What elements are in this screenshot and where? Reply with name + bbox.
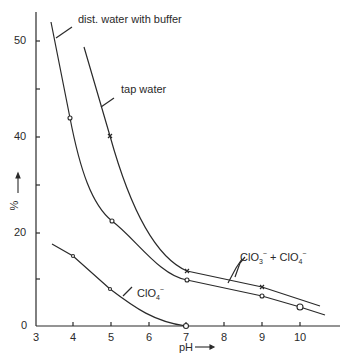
label-dist-water: dist. water with buffer — [78, 14, 182, 25]
x-tick-10: 10 — [294, 332, 306, 343]
x-tick-4: 4 — [70, 332, 76, 343]
x-tick-8: 8 — [221, 332, 227, 343]
x-tick-6: 6 — [146, 332, 152, 343]
y-axis-label: % — [9, 201, 20, 211]
x-tick-9: 9 — [259, 332, 265, 343]
x-axis-label: pH — [179, 342, 193, 353]
x-tick-3: 3 — [33, 332, 39, 343]
y-tick-0: 0 — [21, 320, 27, 331]
x-tick-5: 5 — [108, 332, 114, 343]
y-tick-20: 20 — [14, 227, 26, 238]
chart-plot — [0, 0, 353, 361]
y-tick-50: 50 — [14, 35, 26, 46]
label-tap-water: tap water — [121, 84, 166, 95]
label-clo3-clo4: ClO3− + ClO4− — [240, 250, 306, 265]
y-tick-40: 40 — [14, 131, 26, 142]
label-clo4: ClO4− — [137, 286, 164, 301]
series-tap-water — [84, 47, 320, 306]
